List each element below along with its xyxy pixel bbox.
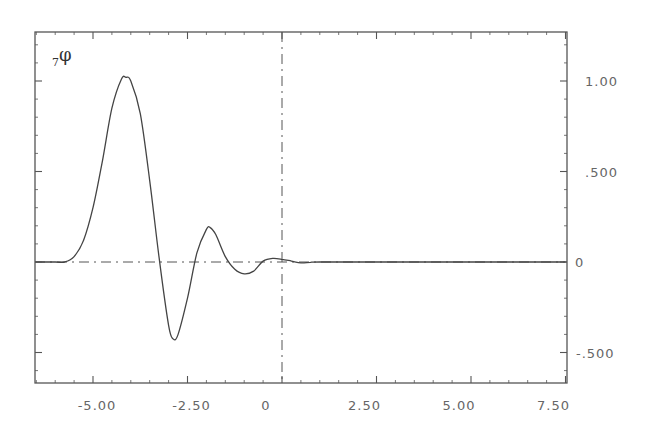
y-tick-label: .500: [585, 165, 618, 180]
y-tick-label: 0: [575, 255, 584, 270]
x-tick-label: 0: [261, 398, 270, 413]
minor-ticks: [35, 32, 567, 383]
major-ticks: [35, 32, 567, 383]
plot-frame: [35, 32, 567, 383]
x-tick-label: 5.00: [443, 398, 476, 413]
x-tick-label: -2.50: [172, 398, 211, 413]
y-axis-tick-labels: 1.00.5000-.500: [575, 74, 618, 361]
y-tick-label: -.500: [576, 346, 615, 361]
x-tick-label: 7.50: [537, 398, 570, 413]
reference-lines: [35, 32, 567, 383]
y-tick-label: 1.00: [585, 74, 618, 89]
series-label: 7φ: [52, 44, 72, 69]
series-label-subscript: 7: [52, 56, 59, 69]
data-series-7phi: [35, 76, 565, 340]
x-axis-tick-labels: -5.00-2.5002.505.007.50: [78, 398, 570, 413]
x-tick-label: 2.50: [348, 398, 381, 413]
line-chart: -5.00-2.5002.505.007.50 1.00.5000-.500 7…: [0, 0, 653, 431]
x-tick-label: -5.00: [78, 398, 117, 413]
series-label-symbol: φ: [59, 44, 72, 65]
